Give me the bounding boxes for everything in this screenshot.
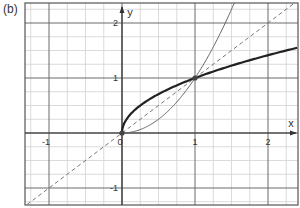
intersection-point — [119, 130, 124, 135]
y-axis-label: y — [127, 6, 133, 18]
series-y-x — [122, 1, 235, 133]
x-axis-arrow-icon — [290, 131, 297, 136]
series-y-x — [122, 48, 297, 133]
x-tick-label: 2 — [265, 137, 270, 147]
plot-frame — [25, 3, 298, 205]
x-axis-label: x — [288, 117, 294, 129]
x-tick-label: 1 — [192, 137, 197, 147]
function-graph: -1120-112xy — [0, 0, 300, 208]
y-tick-label: -1 — [110, 183, 118, 193]
minor-grid — [25, 3, 298, 205]
y-tick-label: 1 — [113, 73, 118, 83]
y-tick-label: 2 — [113, 18, 118, 28]
origin-label: 0 — [117, 137, 122, 147]
x-tick-label: -1 — [42, 137, 50, 147]
major-grid — [25, 3, 298, 205]
intersection-point — [192, 75, 197, 80]
